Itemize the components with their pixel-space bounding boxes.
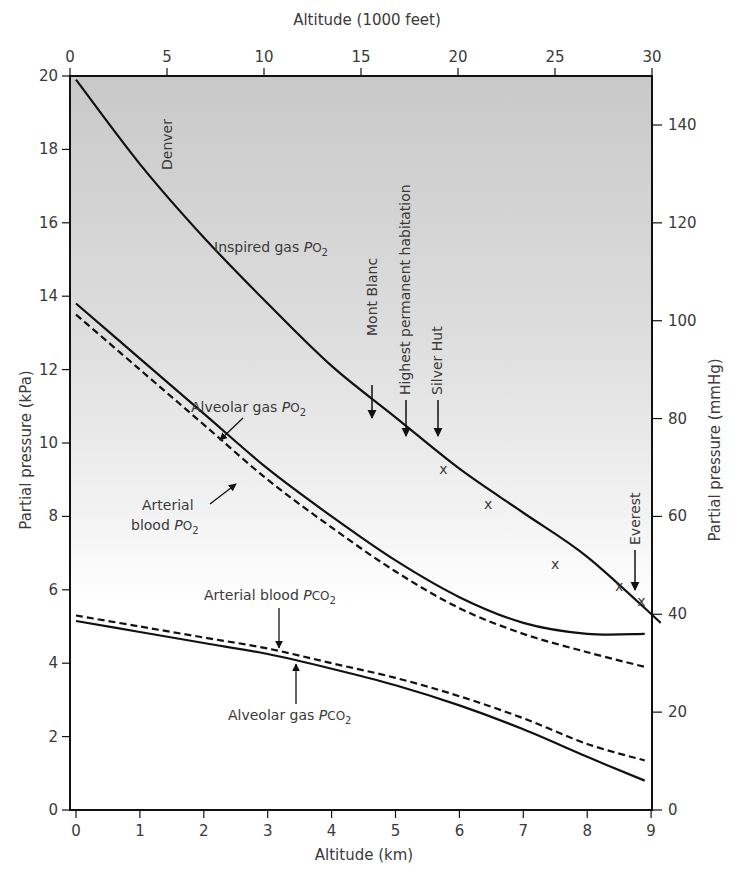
svg-text:5: 5 [391, 822, 401, 840]
svg-text:Highest permanent habitation: Highest permanent habitation [397, 184, 413, 395]
svg-text:Arterial: Arterial [142, 497, 194, 513]
svg-text:0: 0 [668, 801, 678, 819]
x-marker-icon: x [615, 578, 623, 594]
svg-text:140: 140 [668, 116, 697, 134]
x-axis-bottom: 0123456789 [71, 810, 656, 840]
svg-text:9: 9 [646, 822, 656, 840]
x-axis-title: Altitude (km) [315, 846, 413, 864]
svg-text:0: 0 [48, 801, 58, 819]
svg-text:4: 4 [327, 822, 337, 840]
svg-text:8: 8 [48, 507, 58, 525]
svg-text:3: 3 [263, 822, 273, 840]
svg-text:80: 80 [668, 410, 687, 428]
x-marker-icon: x [637, 593, 645, 609]
svg-text:25: 25 [545, 48, 564, 66]
svg-text:5: 5 [162, 48, 172, 66]
svg-text:20: 20 [668, 703, 687, 721]
svg-text:16: 16 [39, 214, 58, 232]
y2-axis-title: Partial pressure (mmHg) [706, 358, 724, 541]
svg-text:2: 2 [199, 822, 209, 840]
x2-axis-title: Altitude (1000 feet) [293, 11, 441, 29]
svg-text:15: 15 [351, 48, 370, 66]
x-axis-top: 051015202530 [65, 48, 661, 76]
x-marker-icon: x [551, 556, 559, 572]
annotation-denver: Denver [159, 119, 175, 170]
altitude-partial-pressure-chart: xxxxx 0123456789 051015202530 0246810121… [0, 0, 734, 891]
svg-text:20: 20 [448, 48, 467, 66]
svg-text:120: 120 [668, 214, 697, 232]
svg-text:100: 100 [668, 312, 697, 330]
svg-text:0: 0 [71, 822, 81, 840]
svg-text:20: 20 [39, 67, 58, 85]
svg-text:10: 10 [39, 434, 58, 452]
y-axis-right: 020406080100120140 [652, 116, 697, 819]
x-marker-icon: x [484, 496, 492, 512]
svg-text:0: 0 [65, 48, 75, 66]
svg-text:Mont Blanc: Mont Blanc [364, 258, 380, 336]
svg-text:14: 14 [39, 287, 58, 305]
svg-text:18: 18 [39, 140, 58, 158]
svg-text:1: 1 [135, 822, 145, 840]
x-marker-icon: x [439, 461, 447, 477]
svg-text:6: 6 [455, 822, 465, 840]
y-axis-title: Partial pressure (kPa) [17, 370, 35, 529]
svg-text:7: 7 [519, 822, 529, 840]
y-axis-left: 02468101214161820 [39, 67, 70, 819]
svg-text:4: 4 [48, 654, 58, 672]
svg-text:12: 12 [39, 361, 58, 379]
svg-text:2: 2 [48, 728, 58, 746]
svg-text:60: 60 [668, 507, 687, 525]
svg-text:6: 6 [48, 581, 58, 599]
svg-text:Everest: Everest [627, 492, 643, 545]
svg-text:10: 10 [254, 48, 273, 66]
svg-text:8: 8 [582, 822, 592, 840]
svg-text:40: 40 [668, 605, 687, 623]
svg-text:30: 30 [642, 48, 661, 66]
svg-text:Silver Hut: Silver Hut [429, 326, 445, 395]
